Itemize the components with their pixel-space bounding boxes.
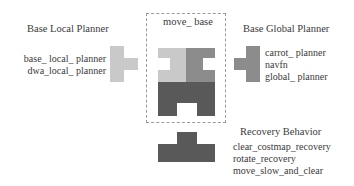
recovery-piece-icon (158, 132, 215, 162)
global-planner-piece-icon (234, 46, 260, 82)
core-recovery-slot-piece-icon (158, 82, 215, 116)
core-local-slot-piece-icon (158, 48, 186, 82)
local-planner-piece-icon (110, 46, 138, 82)
puzzle-pieces (0, 0, 354, 186)
core-global-slot-piece-icon (186, 48, 215, 82)
